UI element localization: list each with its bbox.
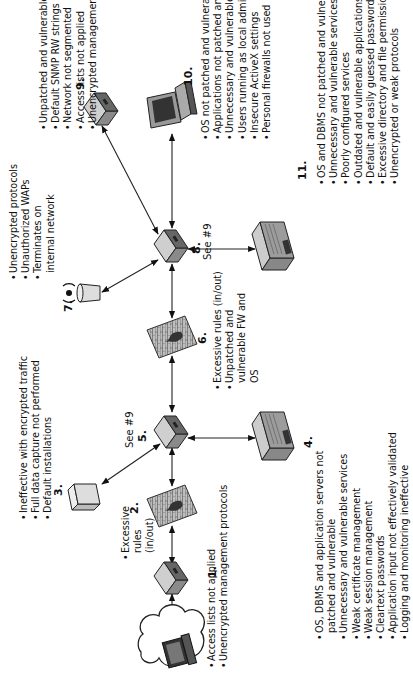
switch-8-icon <box>152 226 192 266</box>
firewall-6-icon <box>145 314 199 360</box>
note-item: Users running as local admin <box>237 0 249 140</box>
notes-ids-3: Ineffective with encrypted traffic Full … <box>18 356 55 520</box>
see-note-5: See #9 <box>124 411 135 448</box>
node-number-7: 7. <box>62 300 75 312</box>
note-item: Unpatched and vulnerable services <box>38 0 50 130</box>
note-item: Unencrypted management protocols <box>218 485 230 668</box>
switch-5-icon <box>152 412 192 452</box>
node-number-5: 5. <box>136 430 149 442</box>
notes-firewall-2: Excessive rules (in/out) <box>120 510 157 560</box>
note-item: Applications not patched and vulnerable <box>212 0 224 140</box>
notes-router-9: Unpatched and vulnerable services Defaul… <box>38 0 99 130</box>
note-item: Unpatched and vulnerable FW and OS <box>224 286 261 390</box>
note-item: Weak certificate management <box>351 418 363 640</box>
note-item: Excessive directory and file permissions <box>377 0 389 185</box>
node-number-6: 6. <box>196 332 209 344</box>
notes-firewall-6: Excessive rules (in/out) Unpatched and v… <box>212 286 261 390</box>
notes-workstation-10: OS not patched and vulnerable Applicatio… <box>200 0 273 140</box>
notes-server-4: OS, DBMS and application servers not pat… <box>314 418 412 640</box>
note-item: Full data capture not performed <box>30 356 42 520</box>
note-item: Unencrypted management protocols <box>87 0 99 130</box>
note-item: Excessive rules (in/out) <box>212 286 224 390</box>
node-number-10: 10. <box>182 67 195 87</box>
see-note-8: See #9 <box>202 223 213 260</box>
note-item: Excessive rules (in/out) <box>120 510 157 560</box>
note-item: Terminates on internal network <box>32 190 56 280</box>
note-item: Insecure ActiveX settings <box>249 0 261 140</box>
note-item: Weak session management <box>363 418 375 640</box>
server-11-icon <box>250 218 298 274</box>
note-item: Unauthorized WAPs <box>20 190 32 280</box>
note-item: Unencrypted protocols <box>8 190 20 280</box>
note-item: Outdated and vulnerable applications <box>353 0 365 185</box>
link-switch8-router9 <box>102 126 158 234</box>
note-item: Unnecessary and vulnerable services <box>328 0 340 185</box>
workstation-10-icon <box>145 78 201 134</box>
note-item: Personal firewalls not used <box>261 0 273 140</box>
note-item: OS, DBMS and application servers not pat… <box>314 418 338 640</box>
note-item: Default SNMP RW strings <box>50 0 62 130</box>
internet-cloud-laptop-icon <box>135 602 215 672</box>
notes-server-11: OS and DBMS not patched and vulnerable U… <box>316 0 401 185</box>
note-item: Network not segmented <box>62 0 74 130</box>
note-item: OS and DBMS not patched and vulnerable <box>316 0 328 185</box>
notes-wap-7: Unencrypted protocols Unauthorized WAPs … <box>8 190 57 280</box>
notes-router-1: Access lists not applied Unencrypted man… <box>206 485 230 668</box>
note-item: Default installations <box>42 356 54 520</box>
link-switch8-wap7 <box>102 260 158 292</box>
note-item: Cleartext passwords <box>375 418 387 640</box>
note-item: Access lists not applied <box>206 485 218 668</box>
note-item: Unnecessary and vulnerable services <box>338 418 350 640</box>
router-1-icon <box>152 558 192 598</box>
ids-sensor-3-icon <box>64 480 104 514</box>
note-item: Unencrypted or weak protocols <box>389 0 401 185</box>
note-item: OS not patched and vulnerable <box>200 0 212 140</box>
note-item: Application input not effectively valida… <box>387 418 399 640</box>
note-item: Logging and monitoring ineffective <box>399 418 411 640</box>
note-item: Access lists not applied <box>75 0 87 130</box>
note-item: Poorly configured services <box>340 0 352 185</box>
server-4-icon <box>250 408 298 464</box>
note-item: Ineffective with encrypted traffic <box>18 356 30 520</box>
note-item: Default and easily guessed passwords <box>365 0 377 185</box>
node-number-11: 11. <box>296 161 309 181</box>
network-vulnerability-diagram: 1. 2. 3. 4. 5. See #9 6. 7. <box>0 0 413 674</box>
note-item: Unnecessary and vulnerable services <box>224 0 236 140</box>
